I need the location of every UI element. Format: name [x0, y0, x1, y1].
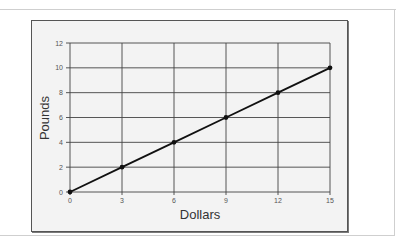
- y-tick-label: 2: [59, 164, 63, 171]
- data-point-marker: [224, 115, 229, 120]
- y-tick-label: 0: [59, 189, 63, 196]
- y-tick-label: 4: [59, 139, 63, 146]
- y-axis-title: Pounds: [37, 95, 52, 140]
- y-axis-ticks: 024681012: [55, 40, 63, 196]
- data-point-marker: [276, 90, 281, 95]
- data-point-marker: [120, 165, 125, 170]
- data-point-marker: [172, 140, 177, 145]
- y-tick-label: 6: [59, 114, 63, 121]
- data-point-marker: [328, 65, 333, 70]
- y-tick-label: 8: [59, 89, 63, 96]
- y-tick-label: 10: [55, 64, 63, 71]
- x-tick-label: 15: [326, 197, 334, 204]
- y-tick-label: 12: [55, 40, 63, 47]
- x-tick-label: 3: [120, 197, 124, 204]
- line-chart: 024681012 03691215 Pounds Dollars: [0, 0, 397, 247]
- x-axis-title: Dollars: [180, 207, 221, 222]
- data-point-marker: [68, 190, 73, 195]
- grid-lines: [66, 43, 330, 195]
- x-tick-label: 9: [224, 197, 228, 204]
- x-tick-label: 0: [68, 197, 72, 204]
- x-tick-label: 6: [172, 197, 176, 204]
- x-axis-ticks: 03691215: [68, 197, 334, 204]
- page: 024681012 03691215 Pounds Dollars: [0, 0, 397, 247]
- x-tick-label: 12: [274, 197, 282, 204]
